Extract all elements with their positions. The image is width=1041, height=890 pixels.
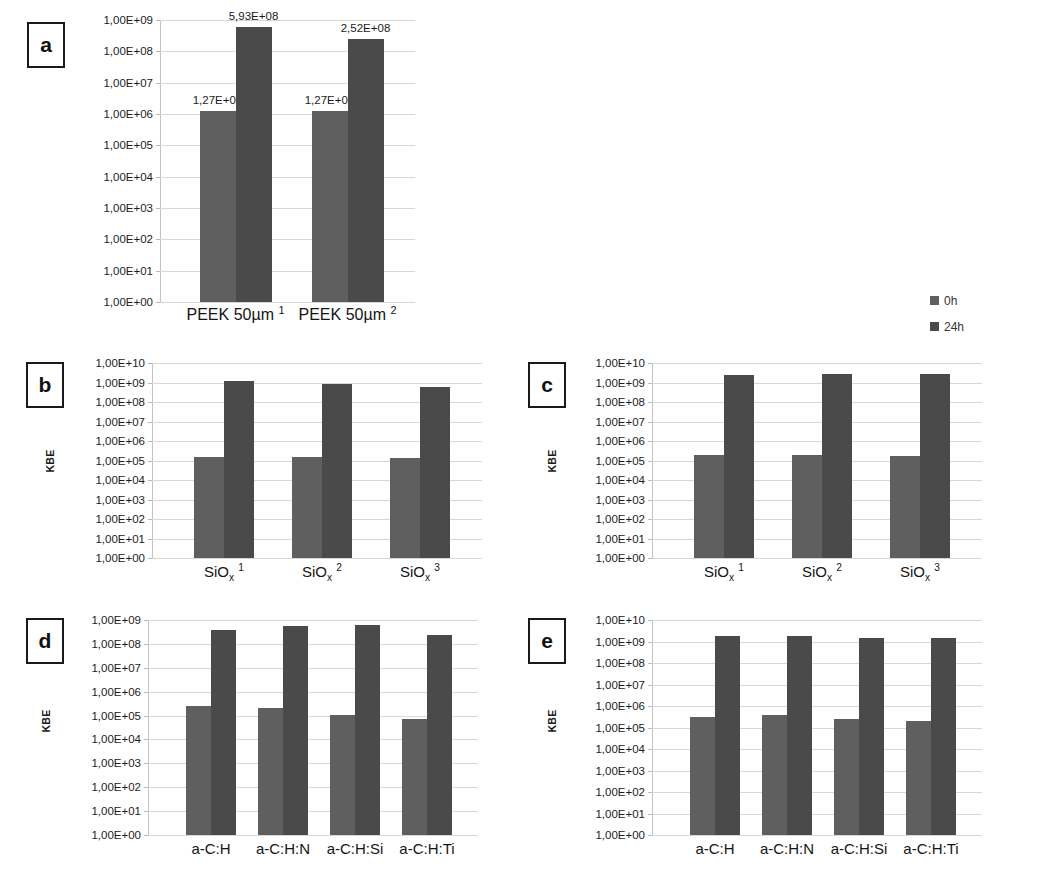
category-label-e-3: a-C:H:Si xyxy=(831,840,888,857)
category-label-e-1: a-C:H xyxy=(695,840,734,857)
y-tick-mark xyxy=(648,663,652,664)
category-label-e-4: a-C:H:Ti xyxy=(903,840,958,857)
bar-a-0h-1 xyxy=(200,111,236,302)
gridline xyxy=(652,835,982,836)
y-tick-label: 1,00E+06 xyxy=(103,108,153,120)
bar-d-24h-2 xyxy=(283,626,308,835)
y-tick-mark xyxy=(648,835,652,836)
category-label-e-2: a-C:H:N xyxy=(760,840,814,857)
bar-b-24h-2 xyxy=(322,384,352,558)
bar-e-0h-4 xyxy=(906,721,931,835)
y-tick-label: 1,00E+03 xyxy=(91,757,141,769)
bar-c-0h-2 xyxy=(792,455,822,558)
category-label-d-4: a-C:H:Ti xyxy=(399,840,454,857)
category-label-a-2: PEEK 50µm 2 xyxy=(299,304,397,324)
bar-e-0h-3 xyxy=(834,719,859,835)
legend-item-24h[interactable]: 24h xyxy=(930,318,964,335)
bar-value-label: 5,93E+08 xyxy=(229,10,279,22)
gridline xyxy=(152,558,482,559)
plot-area-c: 1,00E+101,00E+091,00E+081,00E+071,00E+06… xyxy=(652,363,982,558)
y-tick-label: 1,00E+03 xyxy=(595,765,645,777)
y-tick-label: 1,00E+06 xyxy=(91,686,141,698)
y-tick-mark xyxy=(648,685,652,686)
bar-e-24h-4 xyxy=(931,638,956,835)
y-tick-label: 1,00E+05 xyxy=(103,139,153,151)
y-tick-mark xyxy=(148,402,152,403)
bar-a-24h-1 xyxy=(236,27,272,302)
y-tick-label: 1,00E+02 xyxy=(103,233,153,245)
y-tick-mark xyxy=(148,539,152,540)
y-axis-title-c: KBE xyxy=(546,449,558,472)
y-tick-mark xyxy=(648,500,652,501)
bar-a-0h-2 xyxy=(312,111,348,302)
bar-d-0h-3 xyxy=(330,715,355,835)
y-tick-mark xyxy=(648,558,652,559)
bar-c-0h-3 xyxy=(890,456,920,558)
y-tick-label: 1,00E+01 xyxy=(95,533,145,545)
plot-area-e: 1,00E+101,00E+091,00E+081,00E+071,00E+06… xyxy=(652,620,982,835)
y-tick-label: 1,00E+05 xyxy=(595,722,645,734)
y-axis-line-a xyxy=(160,20,161,302)
y-tick-mark xyxy=(648,363,652,364)
y-tick-mark xyxy=(156,20,160,21)
y-tick-label: 1,00E+06 xyxy=(95,435,145,447)
y-tick-mark xyxy=(144,763,148,764)
y-tick-mark xyxy=(144,644,148,645)
y-tick-mark xyxy=(148,461,152,462)
bar-e-0h-2 xyxy=(762,715,787,835)
category-label-d-1: a-C:H xyxy=(191,840,230,857)
y-tick-mark xyxy=(648,519,652,520)
gridline xyxy=(152,383,482,384)
y-tick-label: 1,00E+10 xyxy=(595,357,645,369)
bar-b-0h-3 xyxy=(390,458,420,558)
legend-label: 0h xyxy=(944,294,957,308)
bar-d-0h-4 xyxy=(402,719,427,835)
y-tick-label: 1,00E+05 xyxy=(95,455,145,467)
bar-e-0h-1 xyxy=(690,717,715,835)
y-tick-mark xyxy=(144,620,148,621)
y-tick-label: 1,00E+07 xyxy=(95,416,145,428)
y-axis-title-e: KBE xyxy=(546,709,558,732)
panel-letter-c: c xyxy=(528,362,566,408)
y-tick-mark xyxy=(156,51,160,52)
category-label-b-3: SiOx 3 xyxy=(400,562,440,583)
y-tick-mark xyxy=(156,208,160,209)
y-tick-mark xyxy=(648,792,652,793)
plot-area-a: 1,00E+091,00E+081,00E+071,00E+061,00E+05… xyxy=(160,20,415,302)
y-tick-mark xyxy=(156,177,160,178)
bar-e-24h-2 xyxy=(787,636,812,835)
bar-e-24h-3 xyxy=(859,638,884,835)
y-tick-label: 1,00E+05 xyxy=(595,455,645,467)
bar-e-24h-1 xyxy=(715,636,740,835)
y-tick-mark xyxy=(144,668,148,669)
y-tick-label: 1,00E+00 xyxy=(95,552,145,564)
y-tick-label: 1,00E+06 xyxy=(595,435,645,447)
y-tick-mark xyxy=(648,539,652,540)
plot-area-b: 1,00E+101,00E+091,00E+081,00E+071,00E+06… xyxy=(152,363,482,558)
y-tick-label: 1,00E+07 xyxy=(595,416,645,428)
y-tick-mark xyxy=(648,771,652,772)
bar-b-0h-2 xyxy=(292,457,322,558)
category-label-d-3: a-C:H:Si xyxy=(327,840,384,857)
y-tick-mark xyxy=(648,728,652,729)
y-tick-label: 1,00E+07 xyxy=(103,77,153,89)
y-tick-label: 1,00E+01 xyxy=(595,808,645,820)
y-tick-mark xyxy=(148,363,152,364)
y-tick-mark xyxy=(648,461,652,462)
y-axis-line-d xyxy=(148,620,149,835)
bar-d-24h-4 xyxy=(427,635,452,835)
y-tick-label: 1,00E+03 xyxy=(595,494,645,506)
gridline xyxy=(148,620,478,621)
bar-value-label: 2,52E+08 xyxy=(341,22,391,34)
y-tick-mark xyxy=(648,480,652,481)
y-tick-label: 1,00E+09 xyxy=(91,614,141,626)
y-tick-label: 1,00E+02 xyxy=(595,786,645,798)
y-tick-label: 1,00E+09 xyxy=(103,14,153,26)
panel-letter-b: b xyxy=(26,362,64,408)
y-tick-mark xyxy=(144,787,148,788)
legend-item-0h[interactable]: 0h xyxy=(930,292,964,309)
y-tick-label: 1,00E+04 xyxy=(95,474,145,486)
y-tick-label: 1,00E+00 xyxy=(595,552,645,564)
y-tick-label: 1,00E+02 xyxy=(595,513,645,525)
category-label-d-2: a-C:H:N xyxy=(256,840,310,857)
